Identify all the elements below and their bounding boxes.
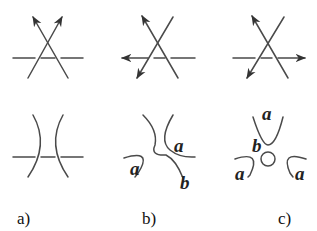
arrow-up-left-icon [142, 16, 178, 78]
label-a-right: a [174, 135, 184, 156]
arrow-up-left-icon [252, 16, 288, 78]
left-arc [28, 115, 40, 177]
right-arc [56, 115, 68, 177]
panel-a-bottom-resolution [13, 115, 83, 177]
panel-c-top-crossing [233, 16, 305, 78]
label-b: b [180, 172, 190, 193]
panel-c-bottom-resolution: a b a a [235, 103, 306, 184]
caption-c: c) [278, 209, 291, 228]
label-a-top: a [262, 103, 272, 124]
figure-canvas: a a b a b a a a) b) c) [0, 0, 317, 231]
center-loop [261, 152, 275, 166]
label-a-right: a [295, 163, 305, 184]
panel-b-bottom-resolution: a a b [124, 115, 195, 193]
arrow-down-left-icon [137, 17, 173, 78]
label-a-left: a [130, 158, 140, 179]
arrow-up-right-icon [28, 17, 62, 78]
label-a-left: a [235, 163, 245, 184]
arrow-down-left-icon [247, 17, 284, 78]
caption-a: a) [17, 209, 30, 228]
caption-b: b) [142, 209, 156, 228]
arrow-up-left-icon [33, 17, 68, 78]
panel-a-top-crossing [13, 17, 83, 78]
label-b: b [252, 135, 262, 156]
panel-b-top-crossing [122, 16, 195, 78]
